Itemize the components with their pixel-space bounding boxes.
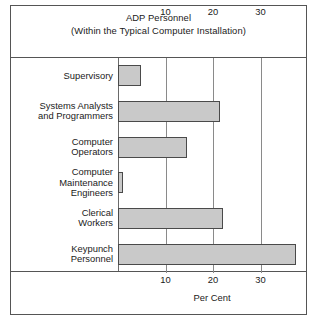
bottom-axis-tick-labels: 102030 bbox=[118, 274, 306, 288]
value-axis-baseline bbox=[118, 58, 119, 271]
tick-label-20: 20 bbox=[208, 274, 218, 285]
category-label-line: Computer bbox=[59, 167, 113, 178]
bar-systems-analysts-and-programmers bbox=[118, 101, 220, 122]
category-label: Supervisory bbox=[64, 71, 114, 82]
category-label-line: Operators bbox=[71, 147, 113, 158]
tick-label-10: 10 bbox=[160, 6, 170, 17]
gridline-20 bbox=[213, 58, 214, 271]
category-label-line: Engineers bbox=[59, 188, 113, 199]
gridline-10 bbox=[166, 58, 167, 271]
x-axis-title: Per Cent bbox=[118, 292, 306, 303]
bar-supervisory bbox=[118, 65, 141, 86]
plot-area bbox=[118, 58, 306, 271]
chart-plot-band: SupervisorySystems Analystsand Programme… bbox=[11, 58, 306, 272]
tick-mark-30 bbox=[261, 267, 262, 273]
category-label-line: Supervisory bbox=[64, 71, 114, 82]
tick-mark-10 bbox=[166, 267, 167, 273]
category-label-column: SupervisorySystems Analystsand Programme… bbox=[11, 58, 118, 271]
category-label: ComputerMaintenanceEngineers bbox=[59, 167, 113, 199]
tick-label-30: 30 bbox=[255, 274, 265, 285]
category-label: Systems Analystsand Programmers bbox=[38, 101, 113, 122]
category-label-line: Workers bbox=[78, 218, 113, 229]
bar-keypunch-personnel bbox=[118, 244, 296, 265]
bar-clerical-workers bbox=[118, 208, 223, 229]
tick-label-30: 30 bbox=[255, 6, 265, 17]
category-label: KeypunchPersonnel bbox=[71, 244, 113, 265]
tick-mark-20 bbox=[213, 267, 214, 273]
bar-computer-maintenance-engineers bbox=[118, 172, 123, 193]
category-label-line: Personnel bbox=[71, 254, 113, 265]
tick-label-10: 10 bbox=[160, 274, 170, 285]
chart-footer: 102030 Per Cent bbox=[11, 272, 306, 314]
chart-subtitle: (Within the Typical Computer Installatio… bbox=[11, 24, 306, 37]
category-label: ComputerOperators bbox=[71, 137, 113, 158]
tick-label-20: 20 bbox=[208, 6, 218, 17]
category-label-line: and Programmers bbox=[38, 111, 113, 122]
chart-figure: ADP Personnel (Within the Typical Comput… bbox=[10, 5, 307, 315]
top-axis-tick-labels: 102030 bbox=[11, 6, 306, 20]
category-label: ClericalWorkers bbox=[78, 208, 113, 229]
gridline-30 bbox=[261, 58, 262, 271]
chart-header: ADP Personnel (Within the Typical Comput… bbox=[11, 6, 306, 58]
bar-computer-operators bbox=[118, 137, 187, 158]
